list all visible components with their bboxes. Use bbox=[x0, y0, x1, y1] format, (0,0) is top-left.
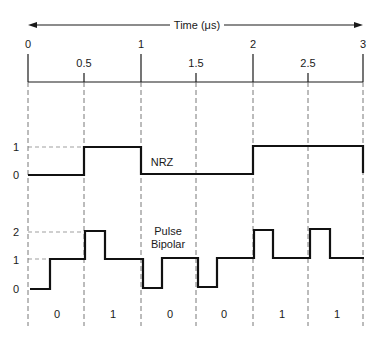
bit-label: 0 bbox=[221, 308, 227, 320]
bit-label: 0 bbox=[167, 308, 173, 320]
nrz-waveform: 1 0 NRZ bbox=[13, 141, 363, 181]
nrz-signal bbox=[28, 146, 363, 175]
bit-label: 1 bbox=[334, 308, 340, 320]
pulse-bipolar-signal bbox=[30, 229, 364, 289]
pulse-bipolar-waveform: 2 1 0 Pulse Bipolar bbox=[13, 225, 364, 295]
pb-level-2-label: 2 bbox=[13, 226, 19, 238]
time-arrow: Time (μs) bbox=[28, 19, 363, 31]
bit-label: 1 bbox=[110, 308, 116, 320]
vertical-gridlines bbox=[28, 82, 363, 326]
pb-level-0-label: 0 bbox=[13, 283, 19, 295]
tick-label-1-5: 1.5 bbox=[188, 57, 203, 69]
arrow-right-icon bbox=[354, 22, 363, 28]
tick-label-0: 0 bbox=[25, 38, 31, 50]
tick-label-2-5: 2.5 bbox=[300, 57, 315, 69]
minor-tick-labels: 0.5 1.5 2.5 bbox=[76, 57, 315, 69]
tick-label-2: 2 bbox=[250, 38, 256, 50]
bit-labels: 0 1 0 0 1 1 bbox=[54, 308, 340, 320]
nrz-label: NRZ bbox=[151, 156, 174, 168]
arrow-left-icon bbox=[28, 22, 37, 28]
tick-label-1: 1 bbox=[138, 38, 144, 50]
bit-label: 1 bbox=[279, 308, 285, 320]
pb-level-1-label: 1 bbox=[13, 254, 19, 266]
pulse-bipolar-label-line1: Pulse bbox=[154, 225, 182, 237]
bit-label: 0 bbox=[54, 308, 60, 320]
time-axis-title: Time (μs) bbox=[174, 19, 220, 31]
tick-label-0-5: 0.5 bbox=[76, 57, 91, 69]
tick-label-3: 3 bbox=[360, 38, 366, 50]
major-tick-labels: 0 1 2 3 bbox=[25, 38, 366, 50]
nrz-level-1-label: 1 bbox=[13, 141, 19, 153]
nrz-vs-pulse-bipolar-diagram: Time (μs) 0 1 2 3 0.5 1.5 2.5 1 0 bbox=[0, 0, 383, 342]
pulse-bipolar-label-line2: Bipolar bbox=[151, 238, 186, 250]
nrz-level-0-label: 0 bbox=[13, 169, 19, 181]
